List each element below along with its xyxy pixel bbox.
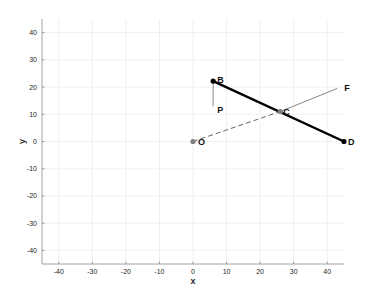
y-tick-label: -30: [27, 220, 37, 227]
x-tick-label: 20: [256, 268, 264, 275]
y-tick-label: 40: [29, 29, 37, 36]
point-B: [211, 78, 216, 83]
point-label-F: F: [344, 83, 350, 93]
axes: -40-30-20-10010203040-40-30-20-100102030…: [27, 19, 344, 275]
point-label-O: O: [198, 137, 205, 147]
y-tick-label: 0: [33, 138, 37, 145]
y-axis-label: y: [17, 139, 27, 144]
x-axis-label: x: [190, 276, 195, 286]
x-tick-label: -10: [154, 268, 164, 275]
segment-OC: [193, 112, 280, 142]
y-tick-label: 20: [29, 84, 37, 91]
point-label-D: D: [348, 137, 355, 147]
point-label-B: B: [217, 75, 224, 85]
y-tick-label: -40: [27, 247, 37, 254]
x-tick-label: 10: [223, 268, 231, 275]
y-tick-label: -20: [27, 192, 37, 199]
x-tick-label: 40: [323, 268, 331, 275]
x-tick-label: -40: [54, 268, 64, 275]
point-O: [190, 139, 195, 144]
y-tick-label: 10: [29, 111, 37, 118]
x-tick-label: 30: [290, 268, 298, 275]
x-tick-label: -20: [121, 268, 131, 275]
point-label-C: C: [283, 107, 290, 117]
point-C: [278, 109, 283, 114]
point-label-P: P: [217, 105, 223, 115]
x-tick-label: -30: [87, 268, 97, 275]
chart: -40-30-20-10010203040-40-30-20-100102030…: [0, 0, 370, 300]
y-tick-label: -10: [27, 165, 37, 172]
y-tick-label: 30: [29, 56, 37, 63]
x-tick-label: 0: [191, 268, 195, 275]
point-D: [341, 139, 346, 144]
series-layer: [193, 81, 344, 141]
